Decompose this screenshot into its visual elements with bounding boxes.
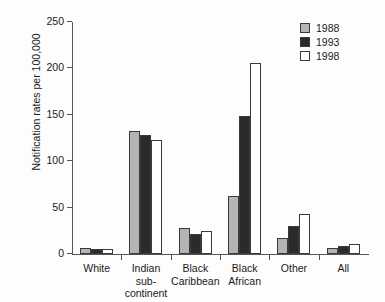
- bar[interactable]: [250, 63, 261, 254]
- category-label: White: [72, 262, 121, 300]
- category-label: BlackCaribbean: [171, 262, 220, 300]
- category-separator: [171, 254, 172, 260]
- bar[interactable]: [338, 246, 349, 254]
- bar[interactable]: [239, 116, 250, 254]
- bar[interactable]: [190, 234, 201, 254]
- bar[interactable]: [288, 226, 299, 254]
- category-label-line2: continent: [121, 287, 170, 300]
- category-label-line2: Caribbean: [171, 275, 220, 288]
- bar[interactable]: [151, 140, 162, 254]
- y-axis-tick-label: 50: [52, 201, 64, 214]
- bar[interactable]: [327, 248, 338, 254]
- legend-item[interactable]: 1993: [300, 36, 339, 48]
- legend-swatch-icon: [300, 23, 310, 33]
- legend-item-label: 1988: [316, 22, 339, 34]
- bar[interactable]: [299, 214, 310, 254]
- category-label-line1: Indian sub-: [132, 262, 161, 287]
- category-separator: [269, 254, 270, 260]
- bar[interactable]: [179, 228, 190, 254]
- legend-item-label: 1998: [316, 50, 339, 62]
- legend-item-label: 1993: [316, 36, 339, 48]
- bar[interactable]: [140, 135, 151, 254]
- category-label-line1: Black: [232, 262, 258, 274]
- x-axis-category-labels: WhiteIndian sub-continentBlackCaribbeanB…: [72, 262, 368, 300]
- bar[interactable]: [349, 244, 360, 254]
- y-axis-tick-label: 250: [46, 15, 64, 28]
- category-label-line2: African: [220, 275, 269, 288]
- category-label-line1: Other: [281, 262, 307, 274]
- category-separator: [220, 254, 221, 260]
- bars: [121, 22, 170, 254]
- y-axis-tick-label: 0: [58, 247, 64, 260]
- bar[interactable]: [129, 131, 140, 254]
- legend-item[interactable]: 1988: [300, 22, 339, 34]
- bar[interactable]: [277, 238, 288, 254]
- category-separator: [319, 254, 320, 260]
- bars: [171, 22, 220, 254]
- legend-swatch-icon: [300, 51, 310, 61]
- category-label: Other: [269, 262, 318, 300]
- bar-group: [72, 22, 121, 254]
- chart-legend: 198819931998: [300, 22, 339, 62]
- y-axis-tick-label: 200: [46, 61, 64, 74]
- legend-swatch-icon: [300, 37, 310, 47]
- bar-group: [171, 22, 220, 254]
- bar-group: [220, 22, 269, 254]
- legend-item[interactable]: 1998: [300, 50, 339, 62]
- category-label-line1: All: [337, 262, 349, 274]
- bars: [72, 22, 121, 254]
- category-label: BlackAfrican: [220, 262, 269, 300]
- bars: [220, 22, 269, 254]
- category-label: All: [319, 262, 368, 300]
- bar[interactable]: [228, 196, 239, 254]
- category-separator: [121, 254, 122, 260]
- y-axis-tick-label: 100: [46, 154, 64, 167]
- category-label: Indian sub-continent: [121, 262, 170, 300]
- bar-group: [121, 22, 170, 254]
- y-axis-tick-label: 150: [46, 108, 64, 121]
- category-label-line1: Black: [182, 262, 208, 274]
- y-axis-title: Notification rates per 100,000: [30, 2, 42, 202]
- bar[interactable]: [102, 249, 113, 254]
- category-label-line1: White: [83, 262, 110, 274]
- bar[interactable]: [91, 249, 102, 254]
- bar-chart: 050100150200250 Notification rates per 1…: [0, 0, 385, 302]
- bar[interactable]: [80, 248, 91, 254]
- bar[interactable]: [201, 231, 212, 254]
